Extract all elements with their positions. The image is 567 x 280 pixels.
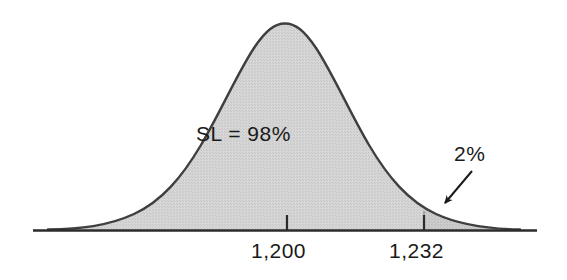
service-level-label: SL = 98% (196, 122, 291, 146)
tail-percent-label: 2% (454, 142, 485, 166)
normal-distribution-figure: SL = 98% 2% 1,200 1,232 (0, 0, 567, 280)
x-tick-label-cutoff: 1,232 (389, 239, 444, 263)
x-tick-label-mean: 1,200 (251, 239, 306, 263)
tail-callout-arrow (445, 171, 472, 203)
